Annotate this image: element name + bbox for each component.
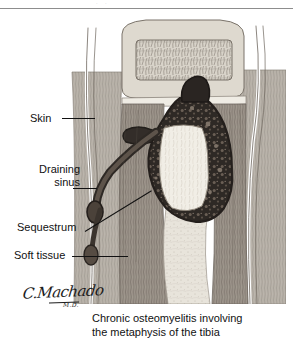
label-draining-sinus-line1: Draining bbox=[39, 163, 80, 175]
label-draining-sinus: Draining sinus bbox=[14, 163, 80, 188]
illustration-page: · · bbox=[0, 0, 293, 342]
sequestrum-region bbox=[160, 125, 209, 211]
figure-caption-line2: the metaphysis of the tibia bbox=[92, 326, 292, 340]
artist-signature: C.Machado M.D. bbox=[23, 283, 103, 301]
page-header-ghost-text: · · bbox=[96, 0, 136, 6]
artist-signature-name: C.Machado bbox=[22, 281, 105, 302]
anatomical-illustration bbox=[60, 12, 286, 304]
label-soft-tissue: Soft tissue bbox=[14, 249, 65, 262]
figure-caption-line1: Chronic osteomyelitis involving bbox=[92, 312, 292, 326]
page-header-rule bbox=[0, 8, 293, 9]
leader-line-skin bbox=[62, 118, 95, 119]
label-draining-sinus-line2: sinus bbox=[54, 176, 80, 188]
label-skin: Skin bbox=[30, 112, 51, 125]
illustration-layers bbox=[72, 20, 286, 304]
leader-line-draining-sinus bbox=[73, 188, 97, 189]
leader-line-soft-tissue bbox=[72, 256, 128, 257]
label-sequestrum: Sequestrum bbox=[17, 221, 76, 234]
artist-signature-credential: M.D. bbox=[63, 301, 79, 308]
figure-caption: Chronic osteomyelitis involving the meta… bbox=[92, 312, 292, 339]
